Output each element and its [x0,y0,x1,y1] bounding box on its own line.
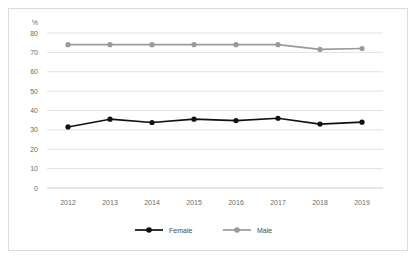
y-axis-tick-label: 50 [30,88,38,95]
legend-label-male: Male [257,227,272,234]
data-point-female-2016 [233,118,238,123]
line-chart: 01020304050607080 2012201320142015201620… [0,0,417,262]
x-axis-tick-label: 2012 [60,199,76,206]
y-axis-tick-label: 60 [30,68,38,75]
data-series-group [65,42,364,130]
data-point-male-2018 [317,47,322,52]
x-axis-tick-label: 2013 [102,199,118,206]
x-axis-tick-label: 2014 [144,199,160,206]
data-point-male-2014 [149,42,154,47]
data-point-male-2013 [107,42,112,47]
data-point-male-2017 [275,42,280,47]
data-point-female-2014 [149,120,154,125]
legend-swatch-marker-male [234,227,240,233]
data-point-male-2012 [65,42,70,47]
x-axis-tick-label: 2018 [312,199,328,206]
chart-figure: 01020304050607080 2012201320142015201620… [0,0,417,262]
y-axis-tick-label: 70 [30,49,38,56]
data-point-female-2017 [275,116,280,121]
data-point-male-2019 [359,46,364,51]
y-axis-tick-label: 0 [34,185,38,192]
x-axis-tick-labels: 20122013201420152016201720182019 [60,199,370,206]
chart-legend: FemaleMale [135,227,272,234]
data-point-female-2019 [359,120,364,125]
y-axis-unit-label: % [32,19,38,26]
y-axis-tick-label: 10 [30,165,38,172]
legend-label-female: Female [169,227,192,234]
data-point-female-2018 [317,121,322,126]
y-axis-tick-labels: 01020304050607080 [30,30,38,192]
y-axis-tick-label: 80 [30,30,38,37]
data-point-female-2015 [191,117,196,122]
y-axis-tick-label: 30 [30,126,38,133]
data-point-female-2013 [107,117,112,122]
data-point-male-2016 [233,42,238,47]
x-axis-tick-label: 2019 [354,199,370,206]
data-point-male-2015 [191,42,196,47]
data-point-female-2012 [65,124,70,129]
y-axis-tick-label: 40 [30,107,38,114]
legend-swatch-marker-female [146,227,152,233]
gridlines-group [47,33,383,188]
x-axis-tick-label: 2015 [186,199,202,206]
x-axis-tick-label: 2017 [270,199,286,206]
y-axis-tick-label: 20 [30,146,38,153]
x-axis-tick-label: 2016 [228,199,244,206]
